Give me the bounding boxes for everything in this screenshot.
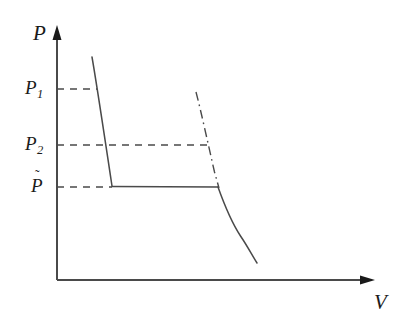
tick-label-p-tilde: P ˜: [31, 176, 43, 195]
tick-label-p1-subscript: 1: [37, 87, 43, 101]
x-axis-label: V: [374, 292, 387, 313]
tick-label-p2-base: P: [25, 133, 37, 154]
tilde-accent-icon: ˜: [35, 169, 40, 183]
tick-label-p2: P2: [25, 134, 43, 156]
tick-label-p1-base: P: [25, 77, 37, 98]
liquid-branch-curve: [92, 57, 112, 186]
x-axis-arrowhead: [360, 276, 375, 285]
y-axis-group: [53, 25, 62, 280]
y-axis-arrowhead: [53, 25, 62, 40]
y-axis-label: P: [33, 23, 46, 44]
x-axis-group: [57, 276, 375, 285]
pv-phase-diagram-figure: P V P1 P2 P ˜: [0, 0, 405, 330]
coexistence-plateau-line: [112, 187, 218, 188]
plot-canvas: [0, 0, 405, 330]
tick-label-p-tilde-wrap: P ˜: [31, 176, 43, 195]
vapour-branch-curve: [218, 187, 257, 263]
tick-label-p1: P1: [25, 78, 43, 100]
tick-label-p2-subscript: 2: [37, 143, 43, 157]
metastable-spinodal-curve: [196, 92, 219, 188]
